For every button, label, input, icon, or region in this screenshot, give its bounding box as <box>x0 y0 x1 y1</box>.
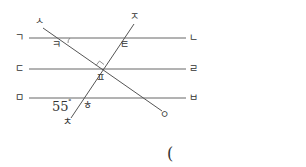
label-nieun: ㄴ <box>189 33 198 43</box>
label-siot: ㅅ <box>35 16 44 26</box>
label-rieul: ㄹ <box>189 64 198 74</box>
angle-label-k: ㅋ <box>52 40 61 50</box>
label-bieup: ㅂ <box>189 93 198 103</box>
label-ieung: ㅇ <box>160 110 169 120</box>
angle-label-p: ㅍ <box>96 73 105 83</box>
label-digeut: ㄷ <box>15 64 24 74</box>
label-jieut: ㅈ <box>130 12 139 22</box>
angle-label-t: ㅌ <box>120 40 129 50</box>
given-angle-value: 55 <box>52 100 69 113</box>
label-chieut: ㅊ <box>63 117 72 127</box>
given-angle-degree: ° <box>68 99 72 106</box>
angle-arc-k <box>68 38 70 43</box>
label-mieum: ㅁ <box>15 93 24 103</box>
answer-open-paren: ( <box>167 146 173 162</box>
label-giyeok: ㄱ <box>15 33 24 43</box>
angle-label-h: ㅎ <box>83 101 92 111</box>
right-angle-marker <box>96 61 104 66</box>
geometry-figure <box>0 0 306 167</box>
